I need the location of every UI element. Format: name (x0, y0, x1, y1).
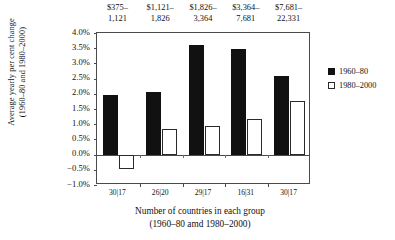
income-group-label-line-2: 7,681 (224, 13, 267, 24)
bar (231, 49, 246, 155)
bar (205, 126, 220, 155)
income-group-label-line-1: $1,826– (182, 2, 225, 13)
plot-area (96, 32, 310, 184)
legend-swatch-light (328, 82, 335, 89)
x-axis-tick-label: 29|17 (182, 188, 225, 197)
bar (119, 155, 134, 169)
legend-label: 1960–80 (339, 67, 368, 76)
bar-chart-figure: Average yearly per cent change (1960–80 … (0, 0, 395, 240)
x-axis-title-line-1: Number of countries in each group (60, 205, 340, 218)
y-axis-tick-mark (94, 48, 98, 49)
y-axis-tick-mark (94, 139, 98, 140)
income-group-label-line-1: $375– (96, 2, 139, 13)
y-axis-tick-label: 0.5% (46, 134, 90, 143)
bar (162, 129, 177, 155)
y-axis-tick-label: −0.5% (46, 164, 90, 173)
income-group-label-line-2: 1,826 (139, 13, 182, 24)
y-axis-tick-label: 4.0% (46, 28, 90, 37)
baseline-minor-tick (268, 155, 269, 158)
bar (146, 92, 161, 154)
x-axis-tick-mark (140, 183, 141, 187)
income-group-label-line-1: $1,121– (139, 2, 182, 13)
legend-item: 1960–80 (328, 64, 394, 78)
income-group-labels: $375–1,121$1,121–1,826$1,826–3,364$3,364… (96, 2, 310, 30)
y-axis-tick-mark (94, 33, 98, 34)
y-axis-tick-label: −1.0% (46, 180, 90, 189)
bar (189, 45, 204, 154)
x-axis-tick-mark (183, 183, 184, 187)
x-axis-tick-labels: 30|1726|2029|1716|3130|17 (96, 188, 310, 200)
income-group-label: $3,364–7,681 (224, 2, 267, 24)
y-axis-tick-mark (94, 109, 98, 110)
y-axis-tick-label: 2.0% (46, 88, 90, 97)
y-axis-tick-mark (94, 63, 98, 64)
income-group-label: $7,681–22,331 (267, 2, 310, 24)
baseline-minor-tick (225, 155, 226, 158)
income-group-label-line-2: 22,331 (267, 13, 310, 24)
y-axis-title-line-2: (1960–80 and 1980–2000) (18, 0, 29, 162)
legend: 1960–801980–2000 (328, 64, 394, 92)
baseline-minor-tick (140, 155, 141, 158)
y-axis-tick-mark (94, 170, 98, 171)
income-group-label: $1,826–3,364 (182, 2, 225, 24)
y-axis-tick-labels: 4.0%3.5%3.0%2.5%2.0%1.5%1.0%0.5%0.0%−0.5… (46, 0, 90, 240)
legend-label: 1980–2000 (339, 81, 376, 90)
baseline-minor-tick (183, 155, 184, 158)
y-axis-tick-mark (94, 79, 98, 80)
income-group-label-line-1: $3,364– (224, 2, 267, 13)
x-axis-tick-label: 30|17 (267, 188, 310, 197)
x-axis-tick-mark (268, 183, 269, 187)
income-group-label: $375–1,121 (96, 2, 139, 24)
y-axis-tick-label: 1.5% (46, 104, 90, 113)
income-group-label-line-2: 3,364 (182, 13, 225, 24)
y-axis-title-line-1: Average yearly per cent change (7, 0, 18, 162)
bar (274, 76, 289, 155)
y-axis-tick-label: 0.0% (46, 149, 90, 158)
bar (247, 119, 262, 155)
bar (103, 95, 118, 154)
y-axis-tick-label: 3.0% (46, 58, 90, 67)
x-axis-tick-label: 26|20 (139, 188, 182, 197)
legend-swatch-dark (328, 68, 335, 75)
x-axis-title-line-2: (1960–80 amd 1980–2000) (60, 218, 340, 231)
y-axis-tick-mark (94, 185, 98, 186)
x-axis-tick-label: 16|31 (224, 188, 267, 197)
y-axis-tick-label: 1.0% (46, 119, 90, 128)
x-axis-title: Number of countries in each group (1960–… (60, 205, 340, 230)
legend-item: 1980–2000 (328, 78, 394, 92)
y-axis-tick-label: 2.5% (46, 73, 90, 82)
y-axis-title: Average yearly per cent change (1960–80 … (7, 0, 41, 162)
y-axis-tick-mark (94, 94, 98, 95)
y-axis-tick-label: 3.5% (46, 43, 90, 52)
income-group-label: $1,121–1,826 (139, 2, 182, 24)
income-group-label-line-1: $7,681– (267, 2, 310, 13)
income-group-label-line-2: 1,121 (96, 13, 139, 24)
x-axis-tick-mark (225, 183, 226, 187)
bar (290, 101, 305, 154)
y-axis-tick-mark (94, 124, 98, 125)
x-axis-tick-label: 30|17 (96, 188, 139, 197)
